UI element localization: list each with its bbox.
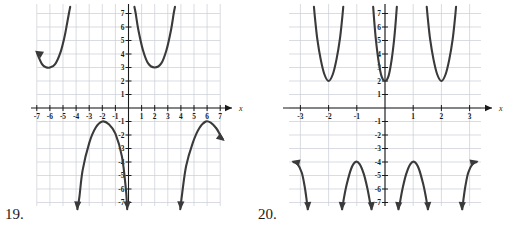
arrowhead [216, 133, 225, 141]
x-tick-label: 3 [468, 112, 472, 121]
arrowhead [177, 201, 184, 210]
y-tick-label: -5 [375, 171, 381, 180]
x-tick-label: 7 [218, 112, 222, 121]
x-tick-label: 3 [166, 112, 170, 121]
problem-number-19: 19. [5, 206, 24, 223]
arrowhead [304, 202, 311, 211]
x-tick-label: -4 [73, 112, 79, 121]
y-tick-label: -3 [375, 144, 381, 153]
figure-20: -3-2-11237654321-1-2-3-4-5-6-7x [258, 0, 517, 225]
y-tick-label: 1 [377, 90, 381, 99]
x-tick-label: -7 [34, 112, 40, 121]
curve-branch-upper-left [37, 7, 70, 68]
x-axis-label: x [498, 104, 503, 113]
y-tick-label: 7 [121, 9, 125, 18]
graph-20-canvas: -3-2-11237654321-1-2-3-4-5-6-7x [258, 0, 517, 225]
x-axis-arrowhead [485, 105, 492, 111]
x-tick-label: 4 [179, 112, 183, 121]
y-tick-label: 2 [377, 77, 381, 86]
x-axis-label: x [238, 104, 243, 113]
x-tick-label: -5 [60, 112, 66, 121]
x-tick-label: 5 [192, 112, 196, 121]
y-tick-label: -6 [118, 185, 124, 194]
y-tick-label: 6 [377, 23, 381, 32]
y-tick-label: -1 [375, 117, 381, 126]
curve-branch-lower-right [180, 121, 223, 209]
problem-number-20: 20. [258, 206, 277, 223]
x-axis-arrowhead [225, 105, 232, 111]
y-tick-label: 5 [377, 36, 381, 45]
y-tick-label: -7 [118, 198, 124, 207]
arrowhead [459, 202, 466, 211]
x-tick-label: 6 [205, 112, 209, 121]
y-tick-label: -2 [118, 131, 124, 140]
figure-19: -7-6-5-4-3-2-112345677654321-1-2-3-4-5-6… [0, 0, 258, 225]
x-tick-label: -3 [86, 112, 92, 121]
x-tick-label: 2 [153, 112, 157, 121]
y-tick-label: -7 [375, 198, 381, 207]
y-tick-label: 7 [377, 9, 381, 18]
arrowhead [124, 201, 131, 210]
x-tick-label: -2 [99, 112, 105, 121]
y-tick-label: 1 [121, 90, 125, 99]
y-tick-label: 6 [121, 23, 125, 32]
y-tick-label: 3 [121, 63, 125, 72]
x-tick-label: 1 [411, 112, 415, 121]
y-tick-label: 2 [121, 77, 125, 86]
y-tick-label: -2 [375, 131, 381, 140]
x-tick-label: -1 [354, 112, 360, 121]
y-tick-label: 5 [121, 36, 125, 45]
x-tick-label: -6 [47, 112, 53, 121]
graph-19-canvas: -7-6-5-4-3-2-112345677654321-1-2-3-4-5-6… [0, 0, 258, 225]
x-tick-label: 2 [440, 112, 444, 121]
x-tick-label: 1 [140, 112, 144, 121]
x-tick-label: -2 [326, 112, 332, 121]
x-tick-label: -3 [297, 112, 303, 121]
y-tick-label: -4 [375, 158, 381, 167]
y-tick-label: -6 [375, 185, 381, 194]
y-tick-label: -1 [118, 117, 124, 126]
y-tick-label: 4 [121, 50, 125, 59]
